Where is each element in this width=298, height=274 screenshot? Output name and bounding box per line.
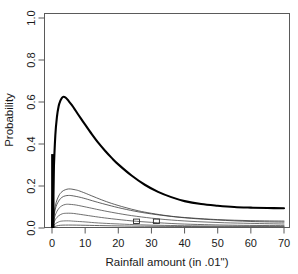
x-axis-title: Rainfall amount (in .01") bbox=[106, 256, 229, 268]
data-curves bbox=[52, 97, 284, 228]
x-tick-label: 70 bbox=[278, 237, 290, 249]
y-axis-title: Probability bbox=[3, 93, 15, 147]
x-axis-ticks bbox=[52, 228, 284, 234]
x-tick-label: 60 bbox=[245, 237, 257, 249]
x-tick-label: 50 bbox=[212, 237, 224, 249]
x-axis-tick-labels: 010203040506070 bbox=[49, 237, 290, 249]
x-tick-label: 30 bbox=[145, 237, 157, 249]
y-tick-label: 0.4 bbox=[25, 136, 37, 151]
y-tick-label: 0.0 bbox=[25, 220, 37, 235]
x-tick-label: 10 bbox=[79, 237, 91, 249]
x-tick-label: 0 bbox=[49, 237, 55, 249]
y-axis-tick-labels: 0.00.20.40.60.81.0 bbox=[25, 10, 37, 235]
y-tick-label: 0.2 bbox=[25, 178, 37, 193]
chart-figure: 0.00.20.40.60.81.0 010203040506070 Proba… bbox=[0, 0, 298, 274]
x-tick-label: 20 bbox=[112, 237, 124, 249]
x-tick-label: 40 bbox=[178, 237, 190, 249]
y-tick-label: 0.6 bbox=[25, 94, 37, 109]
rainfall-probability-plot: 0.00.20.40.60.81.0 010203040506070 Proba… bbox=[0, 0, 298, 274]
y-axis-ticks bbox=[39, 18, 45, 228]
y-tick-label: 1.0 bbox=[25, 10, 37, 25]
y-tick-label: 0.8 bbox=[25, 52, 37, 67]
